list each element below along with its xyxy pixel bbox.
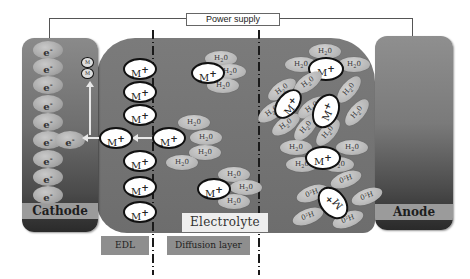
diffusion-boundary-line [258,30,260,275]
water-molecule: H20 [230,180,262,195]
water-molecule: H20 [336,140,368,155]
deposited-metal-atom: M [81,57,94,68]
electron: e- [33,41,63,59]
arrow-head-up-icon [86,81,94,87]
deposited-metal-atom: M [81,68,94,79]
hydrated-metal-ion: M+ [305,146,341,170]
metal-ion-migrating: M+ [152,127,186,149]
wire-right-vertical [412,18,413,36]
electron: e- [33,150,63,168]
arrow-head-left-icon [82,134,88,142]
metal-ion: M+ [123,104,157,126]
metal-ion: M+ [123,176,157,198]
wire-left-vertical [49,18,50,39]
water-molecule: H20 [166,155,198,170]
wire-top-right [280,18,412,19]
electron: e- [33,58,63,76]
electrolyte-label: Electrolyte [182,213,268,232]
electron: e- [33,113,63,131]
electron: e- [33,168,63,186]
electron: e- [33,186,63,204]
hydrated-metal-ion: M+ [197,178,231,200]
diffusion-layer-label: Diffusion layer [167,236,250,255]
wire-top-left [49,18,186,19]
edl-label: EDL [101,236,149,255]
electron-transfer: e- [55,131,85,149]
cathode-label: Cathode [22,203,98,219]
anode-electrode: Anode [375,36,453,230]
power-supply-box: Power supply [186,13,280,26]
metal-ion-reducing: M+ [99,127,133,149]
water-molecule: H20 [178,115,210,130]
hydrated-metal-ion: M+ [191,62,225,84]
anode-label: Anode [375,204,453,220]
water-molecule: H20 [190,130,222,145]
metal-ion: M+ [123,81,157,103]
metal-ion: M+ [123,58,157,80]
metal-ion: M+ [123,150,157,172]
electron: e- [33,95,63,113]
deposition-arrow [89,85,91,135]
electron: e- [33,76,63,94]
metal-ion: M+ [123,201,157,223]
